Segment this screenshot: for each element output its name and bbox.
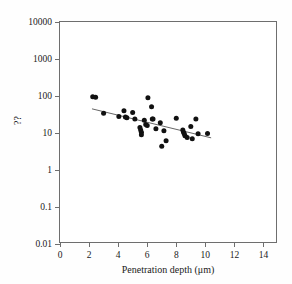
data-point xyxy=(196,131,201,136)
data-point xyxy=(130,110,135,115)
data-point xyxy=(164,138,169,143)
x-tick-label: 6 xyxy=(145,248,150,262)
x-tick-label: 4 xyxy=(116,248,121,262)
data-point xyxy=(158,120,163,125)
data-point xyxy=(174,116,179,121)
data-point xyxy=(116,114,121,119)
data-points xyxy=(90,94,210,148)
x-tick-mark xyxy=(234,242,235,247)
x-tick-mark xyxy=(60,242,61,247)
regression-line xyxy=(92,109,211,138)
x-tick-label: 2 xyxy=(87,248,92,262)
data-point xyxy=(159,144,164,149)
y-tick-mark xyxy=(55,59,60,60)
data-point xyxy=(188,124,193,129)
plot-canvas xyxy=(60,22,278,244)
data-point xyxy=(153,126,158,131)
x-tick-mark xyxy=(118,242,119,247)
data-point xyxy=(139,132,144,137)
figure-scatter-penetration-depth: 0.010.1110100100010000 02468101214 Penet… xyxy=(0,0,292,284)
data-point xyxy=(132,116,137,121)
y-tick-label: 100 xyxy=(38,88,52,104)
x-tick-label: 8 xyxy=(174,248,179,262)
x-axis-title: Penetration depth (μm) xyxy=(59,264,277,275)
data-point xyxy=(93,95,98,100)
x-tick-mark xyxy=(176,242,177,247)
data-point xyxy=(124,115,129,120)
trend-line xyxy=(92,109,211,138)
y-tick-label: 0.1 xyxy=(40,199,52,215)
x-tick-mark xyxy=(89,242,90,247)
data-point xyxy=(145,123,150,128)
y-tick-label: 10000 xyxy=(28,14,52,30)
y-axis-title: ?? xyxy=(12,116,23,125)
x-tick-label: 0 xyxy=(58,248,63,262)
x-tick-mark xyxy=(147,242,148,247)
x-tick-label: 14 xyxy=(259,248,269,262)
y-tick-mark xyxy=(55,22,60,23)
y-tick-mark xyxy=(55,133,60,134)
plot-area: 0.010.1110100100010000 02468101214 xyxy=(59,21,277,243)
y-tick-label: 10 xyxy=(43,125,53,141)
x-tick-mark xyxy=(263,242,264,247)
data-point xyxy=(193,116,198,121)
y-tick-label: 1000 xyxy=(33,51,52,67)
x-tick-label: 10 xyxy=(201,248,211,262)
data-point xyxy=(145,95,150,100)
data-point xyxy=(190,136,195,141)
data-point xyxy=(101,111,106,116)
x-tick-mark xyxy=(205,242,206,247)
y-tick-label: 0.01 xyxy=(35,236,52,252)
y-tick-mark xyxy=(55,170,60,171)
x-tick-label: 12 xyxy=(230,248,240,262)
data-point xyxy=(151,116,156,121)
data-point xyxy=(185,135,190,140)
y-tick-label: 1 xyxy=(47,162,52,178)
y-tick-mark xyxy=(55,207,60,208)
y-tick-mark xyxy=(55,96,60,97)
data-point xyxy=(149,104,154,109)
data-point xyxy=(161,128,166,133)
data-point xyxy=(121,108,126,113)
data-point xyxy=(205,131,210,136)
